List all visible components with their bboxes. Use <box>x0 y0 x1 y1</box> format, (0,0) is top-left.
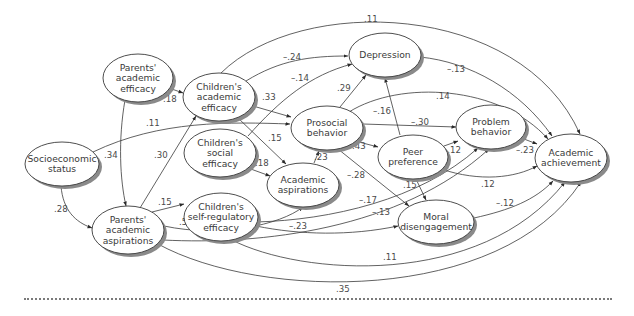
node-csre: Children'sself-regulatoryefficacy <box>184 193 261 244</box>
node-label: Parents' <box>110 214 147 225</box>
path-coefficient: –.24 <box>283 52 301 62</box>
path-coefficient: .11 <box>383 252 397 262</box>
node-label: efficacy <box>203 222 239 233</box>
node-label: Academic <box>281 174 326 185</box>
path-coefficient: .30 <box>154 150 168 160</box>
node-moral: Moraldisengagement <box>398 200 477 247</box>
path-coefficient: –.13 <box>372 207 390 217</box>
edge-cae-to-pro <box>253 106 291 117</box>
node-label: academic <box>106 224 150 235</box>
path-coefficient: .15 <box>268 133 282 143</box>
node-label: behavior <box>307 127 348 138</box>
node-label: Problem <box>472 116 510 127</box>
node-label: Peer <box>403 146 424 157</box>
node-ach: Academicachievement <box>535 134 610 185</box>
path-coefficient: –.16 <box>373 106 391 116</box>
path-coefficient: –.13 <box>447 64 465 74</box>
node-label: Prosocial <box>307 117 348 128</box>
node-label: Socioeconomic <box>27 153 96 164</box>
node-label: Depression <box>359 49 411 60</box>
node-label: academic <box>197 91 241 102</box>
node-label: aspirations <box>278 184 329 195</box>
node-pro: Prosocialbehavior <box>291 106 366 153</box>
edge-pae-to-pasp <box>121 100 126 206</box>
node-label: efficacy <box>120 83 156 94</box>
node-label: Children's <box>196 81 242 92</box>
path-coefficient: –.30 <box>411 117 429 127</box>
edge-pro-to-prob <box>363 124 456 127</box>
node-label: Academic <box>549 147 594 158</box>
node-label: Moral <box>423 211 449 222</box>
path-coefficient: –.14 <box>291 73 309 83</box>
node-label: efficacy <box>201 102 237 113</box>
node-label: Parents' <box>120 62 157 73</box>
path-coefficient: .14 <box>436 91 450 101</box>
path-coefficient: .12 <box>481 179 495 189</box>
node-label: academic <box>116 72 160 83</box>
node-asp: Academicaspirations <box>267 163 342 210</box>
path-coefficient: –.12 <box>496 198 514 208</box>
edge-prob-to-ach <box>524 139 537 144</box>
node-label: disengagement <box>400 221 472 232</box>
node-dep: Depression <box>349 33 424 80</box>
path-diagram: .11–.24–.14.18.33.15.11.34.30.18.23.29–.… <box>0 0 634 316</box>
path-coefficient: .23 <box>314 152 328 162</box>
node-label: self-regulatory <box>188 211 255 222</box>
node-label: efficacy <box>202 158 238 169</box>
node-label: preference <box>388 156 438 167</box>
path-coefficient: –.23 <box>289 221 307 231</box>
path-coefficient: –.17 <box>359 195 377 205</box>
path-coefficient: .11 <box>146 118 160 128</box>
path-coefficient: .33 <box>262 92 276 102</box>
node-label: Children's <box>197 137 243 148</box>
node-ses: Socioeconomicstatus <box>25 142 102 189</box>
node-prob: Problembehavior <box>456 105 529 152</box>
path-coefficient: .11 <box>364 14 378 24</box>
path-coefficient: .28 <box>54 204 68 214</box>
path-coefficient: .35 <box>336 284 350 294</box>
node-label: behavior <box>471 126 512 137</box>
node-label: status <box>48 163 76 174</box>
node-pasp: Parents'academicaspirations <box>92 206 167 257</box>
node-label: Children's <box>198 201 244 212</box>
node-pae: Parents'academicefficacy <box>103 54 176 105</box>
node-peer: Peerpreference <box>378 135 451 182</box>
path-coefficient: .29 <box>337 83 351 93</box>
node-cse: Children'ssocialefficacy <box>184 129 259 180</box>
path-coefficient: –.23 <box>516 145 534 155</box>
path-coefficient: .34 <box>104 150 118 160</box>
dotted-divider <box>24 298 612 300</box>
node-label: social <box>207 147 233 158</box>
node-label: aspirations <box>103 235 154 246</box>
path-coefficient: –.28 <box>347 170 365 180</box>
node-label: achievement <box>541 157 601 168</box>
path-coefficient: .15 <box>158 197 172 207</box>
